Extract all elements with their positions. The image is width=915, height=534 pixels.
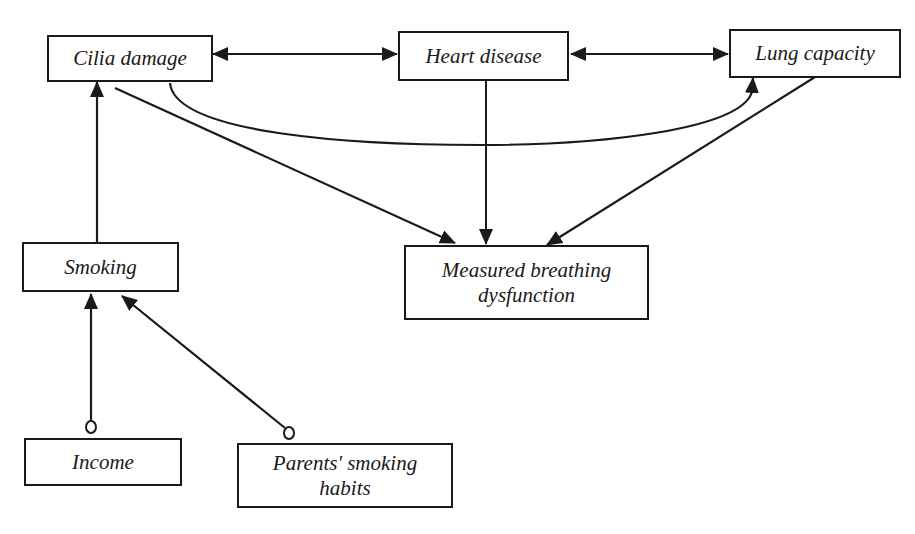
- causal-diagram: Cilia damage Heart disease Lung capacity…: [0, 0, 915, 534]
- edge-lung-measured: [547, 77, 815, 245]
- node-income-label: Income: [72, 450, 134, 475]
- node-smoking: Smoking: [22, 242, 179, 292]
- node-heart-disease-label: Heart disease: [425, 44, 541, 69]
- node-lung-capacity-label: Lung capacity: [755, 41, 875, 66]
- edge-parents-smoking: [122, 296, 285, 428]
- node-parents-smoking-label: Parents' smoking habits: [273, 451, 417, 501]
- edge-cilia-lung-curved: [170, 78, 753, 145]
- node-lung-capacity: Lung capacity: [729, 29, 901, 78]
- node-cilia-damage-label: Cilia damage: [73, 46, 187, 71]
- node-income: Income: [24, 438, 182, 486]
- node-cilia-damage: Cilia damage: [47, 35, 213, 82]
- node-measured-breathing-label: Measured breathing dysfunction: [442, 258, 611, 308]
- income-circle-tail-icon: [86, 421, 96, 433]
- node-heart-disease: Heart disease: [398, 31, 569, 81]
- node-smoking-label: Smoking: [64, 255, 136, 280]
- node-measured-breathing-dysfunction: Measured breathing dysfunction: [404, 245, 649, 320]
- edge-cilia-measured: [115, 88, 455, 243]
- node-parents-smoking-habits: Parents' smoking habits: [237, 443, 453, 508]
- parents-circle-tail-icon: [284, 427, 294, 439]
